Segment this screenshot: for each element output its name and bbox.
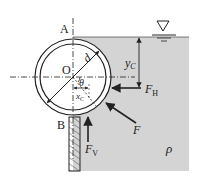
label-density: ρ: [165, 141, 172, 156]
label-f: F: [132, 123, 141, 137]
label-point-a: A: [60, 22, 69, 36]
label-center-o: O: [62, 63, 71, 77]
label-theta: θ: [79, 77, 84, 88]
cylinder-gate-diagram: A B O d θ yC xC FH F FV ρ: [0, 0, 197, 186]
label-point-b: B: [57, 118, 65, 132]
hatched-wall: [69, 117, 80, 171]
